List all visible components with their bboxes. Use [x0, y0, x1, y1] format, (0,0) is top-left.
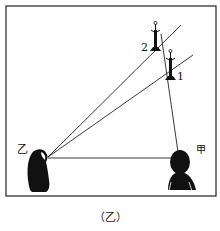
label-lamp-1: 1 — [177, 71, 184, 82]
label-yi: 乙 — [17, 144, 28, 155]
label-jia: 甲 — [196, 145, 206, 155]
figure-caption: （乙） — [0, 208, 220, 224]
observer-yi-figure — [28, 149, 50, 192]
diagram-canvas — [0, 0, 220, 231]
label-lamp-2: 2 — [141, 42, 148, 53]
sight-line-lamp-2 — [48, 25, 181, 157]
observer-jia-figure — [168, 150, 196, 191]
